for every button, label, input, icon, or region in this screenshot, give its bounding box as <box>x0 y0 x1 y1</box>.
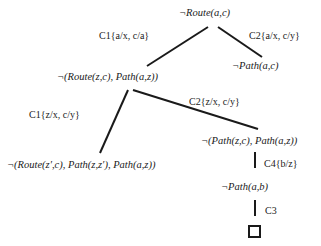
edge-label-c2-z: C2{z/x, c/y} <box>189 97 240 107</box>
edge-label-c2-a: C2{a/x, c/y} <box>249 31 300 41</box>
node-root: ¬Route(a,c) <box>179 8 230 19</box>
empty-clause-box <box>248 225 261 238</box>
edge-left-to-leaf <box>100 90 128 153</box>
node-not-route-zc-path-az: ¬(Route(z,c), Path(a,z)) <box>57 72 158 83</box>
node-not-path-zc-path-az: ¬(Path(z,c), Path(a,z)) <box>201 136 297 147</box>
edge-label-c3: C3 <box>265 206 277 216</box>
node-left-leaf: ¬(Route(z′,c), Path(z,z′), Path(a,z)) <box>7 160 155 171</box>
node-not-path-ac: ¬Path(a,c) <box>232 61 278 72</box>
edge-root-to-left <box>147 27 208 66</box>
node-not-path-ab: ¬Path(a,b) <box>221 182 268 193</box>
resolution-tree-diagram: ¬Route(a,c) C1{a/x, c/a} C2{a/x, c/y} ¬P… <box>0 0 321 246</box>
edge-label-c1-z: C1{z/x, c/y} <box>29 110 80 120</box>
edge-label-c4-b: C4{b/z} <box>264 159 298 169</box>
edge-label-c1-a: C1{a/x, c/a} <box>99 31 149 41</box>
